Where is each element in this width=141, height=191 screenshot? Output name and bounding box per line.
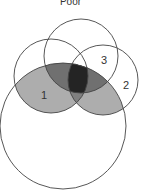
venn-diagram: 1 2 3 <box>0 0 141 191</box>
label-2: 2 <box>123 79 129 91</box>
label-3: 3 <box>101 54 107 66</box>
label-1: 1 <box>41 89 47 101</box>
